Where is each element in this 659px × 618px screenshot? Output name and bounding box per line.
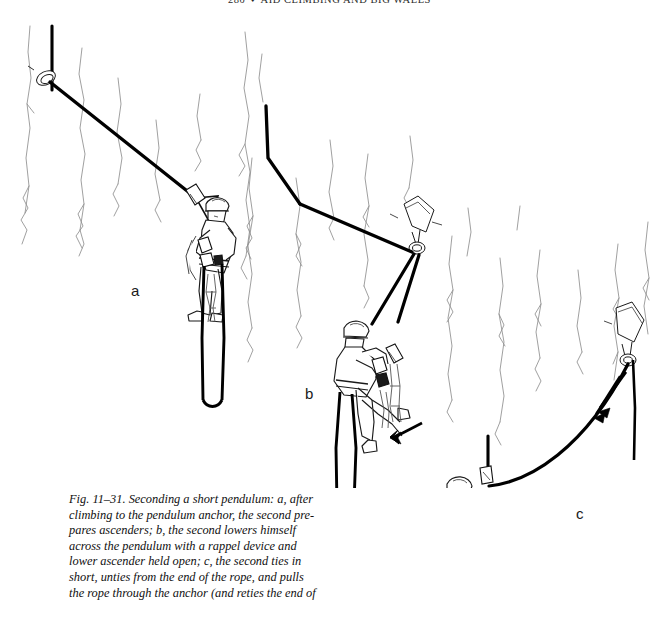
panel-b-pendulum-rope [300,204,412,252]
caption-line: across the pendulum with a rappel device… [69,539,327,555]
panel-label-c: c [576,505,584,522]
diamond-icon: ♦ [245,0,260,4]
panel-b-rope-strand-right [352,394,356,488]
panel-label-a: a [131,282,139,299]
panel-a-pendulum-rope [50,82,196,198]
running-head-title: AID CLIMBING AND BIG WALLS [261,0,431,5]
running-head: 280♦AID CLIMBING AND BIG WALLS [0,0,659,8]
panel-a-upper-ascender [186,184,205,205]
caption-line: climbing to the pendulum anchor, the sec… [69,508,327,524]
panel-b-vertical-rope [266,106,300,204]
figure-caption: Fig. 11–31. Seconding a short pendulum: … [69,492,327,601]
panel-b-lower-ascender [386,344,403,363]
panel-a-rope-strand-right [222,264,224,400]
panel-c-upper-ascender [480,466,493,484]
panel-b-rope-strand-left [336,392,340,488]
caption-line: short, unties from the end of the rope, … [69,570,327,586]
panel-c-right-vertical-rope [633,360,635,460]
panel-c-artwork [436,302,644,488]
caption-line: Fig. 11–31. Seconding a short pendulum: … [69,492,327,508]
caption-line: pares ascenders; b, the second lowers hi… [69,523,327,539]
panel-b-direction-arrow [390,423,422,444]
book-page: 280♦AID CLIMBING AND BIG WALLS [0,0,659,618]
caption-line: the rope through the anchor (and reties … [69,586,327,602]
panel-c-curved-rope [489,364,628,486]
panel-c-climber [436,477,480,488]
panel-a-rope-strand-left [202,266,204,400]
panel-c-pendulum-anchor [604,302,644,366]
panel-b-artwork [266,106,442,488]
caption-line: lower ascender held open; c, the second … [69,554,327,570]
page-number: 280 [228,0,245,5]
panel-label-b: b [305,385,313,402]
figure-illustration [0,8,659,488]
panel-a-rope-loop [203,400,222,406]
panel-a-artwork [28,26,236,406]
rock-cracks-middle [246,136,413,362]
